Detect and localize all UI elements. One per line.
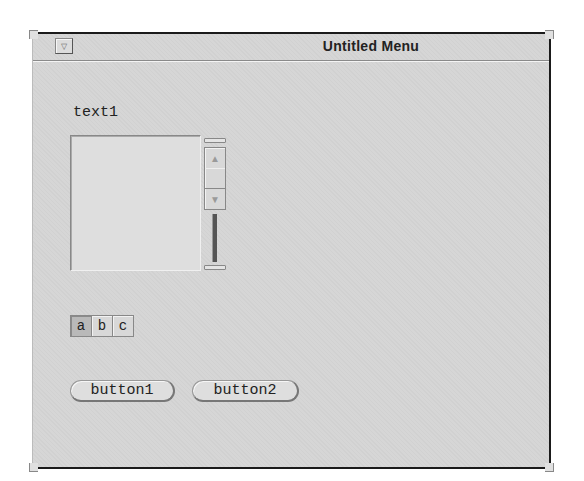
scroll-up-button[interactable]: ▲ [205, 148, 225, 169]
window-title: Untitled Menu [33, 38, 549, 54]
button1[interactable]: button1 [70, 380, 175, 402]
title-bar[interactable]: ▽ Untitled Menu [33, 34, 549, 61]
resize-corner-bottom-right[interactable] [545, 463, 554, 472]
scrollbar-bottom-cable-anchor[interactable] [204, 265, 226, 270]
text1-label: text1 [73, 104, 118, 121]
abc-choice-group: a b c [70, 315, 133, 337]
scroll-down-button[interactable]: ▼ [205, 188, 225, 209]
choice-c[interactable]: c [112, 315, 134, 337]
scrollbar-cable[interactable] [212, 214, 217, 262]
text1-scrollbar[interactable]: ▲ ▼ [204, 138, 226, 270]
button2[interactable]: button2 [192, 380, 299, 402]
choice-a[interactable]: a [70, 315, 92, 337]
scrollbar-elevator[interactable]: ▲ ▼ [204, 147, 226, 210]
window: ▽ Untitled Menu text1 ▲ ▼ a b c button1 … [32, 32, 551, 469]
text1-textarea[interactable] [70, 135, 201, 271]
arrow-down-icon: ▼ [210, 194, 220, 205]
scrollbar-top-cable-anchor[interactable] [204, 138, 226, 143]
resize-corner-bottom-left[interactable] [29, 463, 38, 472]
arrow-up-icon: ▲ [210, 153, 220, 164]
choice-b[interactable]: b [91, 315, 113, 337]
